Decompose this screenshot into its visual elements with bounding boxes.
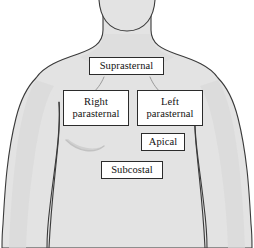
window-label-subcostal: Subcostal <box>101 161 163 179</box>
window-label-suprasternal: Suprasternal <box>89 57 164 75</box>
echocardiography-windows-figure: Suprasternal Right parasternal Left para… <box>0 0 254 248</box>
window-label-right-parasternal: Right parasternal <box>63 90 129 126</box>
window-label-apical: Apical <box>141 133 185 151</box>
window-label-left-parasternal: Left parasternal <box>137 90 203 126</box>
